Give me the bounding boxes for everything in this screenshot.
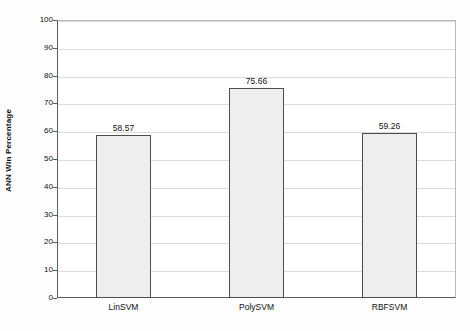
y-axis-tick-label: 30 [25, 211, 53, 219]
y-axis-tick-labels: 0102030405060708090100 [22, 20, 53, 298]
y-axis-tick-label: 0 [25, 294, 53, 302]
y-axis-tick-label: 60 [25, 127, 53, 135]
y-axis-tick-label: 70 [25, 99, 53, 107]
bar: 59.26 [362, 133, 417, 298]
y-axis-tick-label: 40 [25, 183, 53, 191]
bar-value-label: 75.66 [246, 77, 267, 86]
y-axis-tick-mark [53, 298, 57, 299]
y-axis-tick-label: 90 [25, 44, 53, 52]
y-axis-tick-label: 100 [25, 16, 53, 24]
x-axis-category-label: LinSVM [109, 302, 139, 312]
y-axis-tick-label: 80 [25, 72, 53, 80]
bar-value-label: 58.57 [113, 124, 134, 133]
bar-value-label: 59.26 [379, 122, 400, 131]
x-axis-category-label: RBFSVM [372, 302, 407, 312]
bars-layer: 58.5775.6659.26 [57, 20, 456, 298]
x-axis-category-label: PolySVM [239, 302, 274, 312]
y-axis-title-text: ANN Win Percentage [5, 108, 14, 191]
x-axis-category-labels: LinSVMPolySVMRBFSVM [57, 302, 456, 322]
bar: 58.57 [96, 135, 151, 298]
bar-chart: ANN Win Percentage 010203040506070809010… [0, 0, 470, 331]
y-axis-title: ANN Win Percentage [0, 0, 18, 300]
bar: 75.66 [229, 88, 284, 298]
y-axis-tick-label: 10 [25, 266, 53, 274]
y-axis-tick-label: 50 [25, 155, 53, 163]
y-axis-tick-label: 20 [25, 238, 53, 246]
